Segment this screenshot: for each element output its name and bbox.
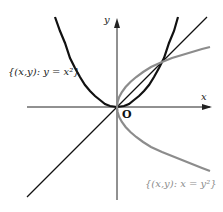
y-axis-label: y	[104, 14, 110, 25]
x-axis-label: x	[201, 91, 207, 102]
sideways-parabola-set-label: {(x,y): x = y²}	[145, 178, 217, 189]
origin-label: O	[122, 108, 132, 121]
parabola-set-label: {(x,y): y = x²}	[8, 66, 80, 77]
curve-x-equals-y-squared-upper	[117, 47, 210, 107]
